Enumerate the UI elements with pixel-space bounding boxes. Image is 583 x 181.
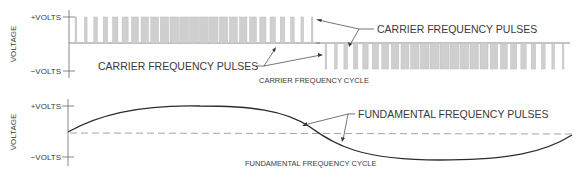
bottom-plus-volts-label: +VOLTS <box>31 102 61 111</box>
carrier-pulse <box>490 43 497 69</box>
carrier-pulse <box>260 17 266 43</box>
carrier-pulse <box>311 17 313 43</box>
carrier-pulse <box>382 43 389 69</box>
callout-upper-leader-1 <box>318 20 374 29</box>
carrier-pulse <box>344 43 348 69</box>
carrier-pulse <box>372 43 378 69</box>
carrier-pulse <box>240 17 247 43</box>
carrier-pulse <box>84 17 87 43</box>
top-plus-volts-label: +VOLTS <box>31 13 61 22</box>
carrier-pulse <box>160 17 168 43</box>
carrier-pulse <box>270 17 275 43</box>
bottom-minus-volts-label: −VOLTS <box>31 153 61 162</box>
arrow-icon <box>318 53 323 57</box>
carrier-pulse <box>440 43 449 69</box>
negative-carrier-pulses <box>325 43 564 69</box>
carrier-pulse <box>450 43 459 69</box>
carrier-pulses-callout-lower: CARRIER FREQUENCY PULSES <box>98 60 258 72</box>
carrier-pulse <box>500 43 507 69</box>
carrier-pulse <box>199 17 208 43</box>
carrier-pulse <box>531 43 535 69</box>
top-y-axis-label: VOLTAGE <box>9 26 18 63</box>
carrier-pulse <box>353 43 357 69</box>
callout-lower-leader-1 <box>256 49 275 66</box>
carrier-pulse <box>420 43 429 69</box>
carrier-cycle-label: CARRIER FREQUENCY CYCLE <box>259 76 369 85</box>
carrier-pulse <box>122 17 128 43</box>
carrier-pulse <box>301 17 304 43</box>
carrier-pulse <box>430 43 439 69</box>
carrier-pulse <box>219 17 227 43</box>
carrier-pulse <box>325 43 327 69</box>
carrier-pulse <box>291 17 295 43</box>
arrow-icon <box>341 137 345 142</box>
arrow-icon <box>272 47 276 52</box>
carrier-pulse <box>141 17 148 43</box>
carrier-pulse <box>521 43 526 69</box>
pwm-diagram: VOLTAGE +VOLTS −VOLTS CARRIER FREQUENCY … <box>0 0 583 181</box>
top-minus-volts-label: −VOLTS <box>31 67 61 76</box>
carrier-pulse <box>170 17 179 43</box>
carrier-pulse <box>511 43 517 69</box>
bottom-panel: VOLTAGE +VOLTS −VOLTS FUNDAMENTAL FREQUE… <box>9 99 572 168</box>
positive-carrier-pulses <box>75 17 313 43</box>
carrier-pulse <box>391 43 398 69</box>
carrier-pulse <box>480 43 488 69</box>
carrier-pulse <box>562 43 564 69</box>
callout-lower-leader-2 <box>264 55 321 66</box>
carrier-pulse <box>103 17 107 43</box>
carrier-pulse <box>460 43 469 69</box>
carrier-pulse <box>401 43 409 69</box>
carrier-pulse <box>113 17 118 43</box>
carrier-pulse <box>75 17 77 43</box>
carrier-pulse <box>280 17 284 43</box>
bottom-y-axis-label: VOLTAGE <box>9 114 18 151</box>
carrier-pulse <box>552 43 555 69</box>
carrier-pulse <box>250 17 257 43</box>
carrier-pulse <box>335 43 338 69</box>
fundamental-cycle-label: FUNDAMENTAL FREQUENCY CYCLE <box>245 159 377 168</box>
carrier-pulse <box>132 17 139 43</box>
carrier-pulses-callout-upper: CARRIER FREQUENCY PULSES <box>377 23 537 35</box>
carrier-pulse <box>363 43 368 69</box>
carrier-pulse <box>180 17 189 43</box>
carrier-pulse <box>209 17 218 43</box>
top-panel: VOLTAGE +VOLTS −VOLTS CARRIER FREQUENCY … <box>9 10 570 85</box>
carrier-pulse <box>470 43 478 69</box>
fundamental-pulses-callout: FUNDAMENTAL FREQUENCY PULSES <box>358 108 549 120</box>
carrier-pulse <box>190 17 199 43</box>
carrier-pulse <box>229 17 237 43</box>
carrier-pulse <box>94 17 98 43</box>
fundamental-leader-2 <box>343 114 348 140</box>
carrier-pulse <box>151 17 159 43</box>
arrow-icon <box>316 19 322 22</box>
carrier-pulse <box>411 43 419 69</box>
carrier-pulse <box>542 43 546 69</box>
